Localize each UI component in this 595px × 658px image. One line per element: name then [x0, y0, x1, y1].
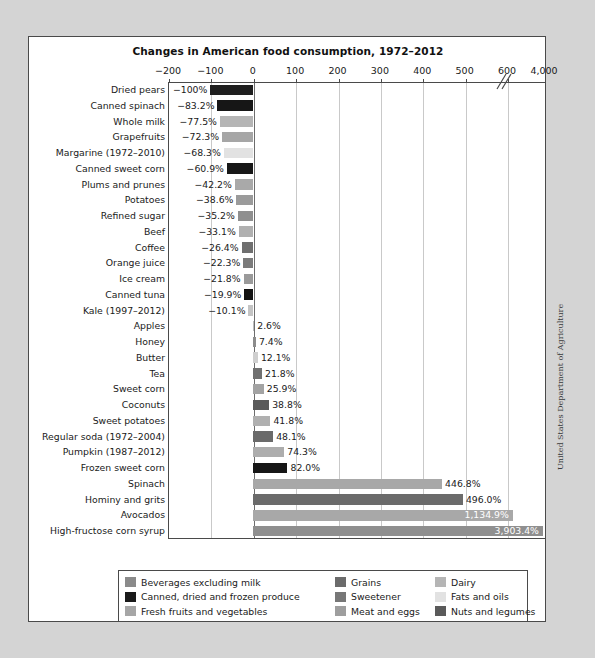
bar-row[interactable]: Dried pears−100% — [29, 82, 547, 98]
bar-value-label: 2.6% — [257, 318, 281, 334]
bar-row[interactable]: Avocados1,134.9% — [29, 507, 547, 523]
bar[interactable] — [244, 289, 252, 299]
bar-row[interactable]: Grapefruits−72.3% — [29, 129, 547, 145]
bar[interactable] — [238, 211, 253, 221]
bar-category-label: Dried pears — [111, 82, 165, 98]
legend-label: Sweetener — [351, 591, 401, 602]
legend-item[interactable]: Fresh fruits and vegetables — [125, 606, 335, 617]
bar-value-label: −22.3% — [203, 255, 240, 271]
bar-row[interactable]: Regular soda (1972–2004)48.1% — [29, 429, 547, 445]
bar-value-label: −33.1% — [198, 224, 235, 240]
legend-item[interactable]: Canned, dried and frozen produce — [125, 591, 335, 602]
bar-row[interactable]: Butter12.1% — [29, 350, 547, 366]
legend-label: Grains — [351, 577, 381, 588]
bar-category-label: Coffee — [135, 240, 165, 256]
bar-row[interactable]: Coffee−26.4% — [29, 240, 547, 256]
bar[interactable] — [253, 352, 258, 362]
bar-value-label: −83.2% — [177, 98, 214, 114]
legend-swatch-icon — [435, 577, 446, 587]
bar-row[interactable]: Beef−33.1% — [29, 224, 547, 240]
legend-item[interactable]: Grains — [335, 577, 435, 588]
legend-swatch-icon — [335, 577, 346, 587]
legend-item[interactable]: Fats and oils — [435, 591, 535, 602]
bar-category-label: Butter — [136, 350, 165, 366]
bar-value-label: −68.3% — [183, 145, 220, 161]
legend-swatch-icon — [125, 577, 136, 587]
legend-swatch-icon — [335, 592, 346, 602]
bar-row[interactable]: Canned sweet corn−60.9% — [29, 161, 547, 177]
bar[interactable] — [253, 368, 262, 378]
x-axis-tick-label: 200 — [328, 65, 346, 76]
bar[interactable] — [222, 132, 253, 142]
bar[interactable] — [227, 163, 253, 173]
bar-row[interactable]: Plums and prunes−42.2% — [29, 177, 547, 193]
legend-item[interactable]: Dairy — [435, 577, 535, 588]
legend-item[interactable]: Sweetener — [335, 591, 435, 602]
bar-row[interactable]: Pumpkin (1987–2012)74.3% — [29, 444, 547, 460]
bar-category-label: Margarine (1972–2010) — [56, 145, 165, 161]
bar-category-label: Beef — [144, 224, 165, 240]
bar-row[interactable]: Orange juice−22.3% — [29, 255, 547, 271]
bar[interactable] — [235, 179, 253, 189]
bar[interactable] — [253, 416, 271, 426]
bar[interactable] — [220, 116, 253, 126]
bar[interactable] — [239, 226, 253, 236]
bar-row[interactable]: Margarine (1972–2010)−68.3% — [29, 145, 547, 161]
bar[interactable] — [253, 494, 463, 504]
legend-label: Nuts and legumes — [451, 606, 535, 617]
bar-value-label: −26.4% — [201, 240, 238, 256]
legend-swatch-icon — [435, 606, 446, 616]
bar-category-label: Ice cream — [119, 271, 165, 287]
legend-swatch-icon — [435, 592, 446, 602]
bar-row[interactable]: Ice cream−21.8% — [29, 271, 547, 287]
legend-item[interactable]: Nuts and legumes — [435, 606, 535, 617]
legend-label: Fats and oils — [451, 591, 509, 602]
bar[interactable] — [242, 242, 253, 252]
bar-row[interactable]: Whole milk−77.5% — [29, 114, 547, 130]
bar-row[interactable]: Hominy and grits496.0% — [29, 492, 547, 508]
bar[interactable] — [253, 463, 288, 473]
bar[interactable] — [224, 148, 253, 158]
x-axis-tick-label: 500 — [456, 65, 474, 76]
bar-category-label: Grapefruits — [113, 129, 165, 145]
bar-row[interactable]: Refined sugar−35.2% — [29, 208, 547, 224]
bar[interactable] — [253, 447, 284, 457]
bar-row[interactable]: Tea21.8% — [29, 366, 547, 382]
bar[interactable] — [253, 431, 273, 441]
bar-row[interactable]: Sweet corn25.9% — [29, 381, 547, 397]
bar-value-label: 74.3% — [287, 444, 317, 460]
bar-value-label: 3,903.4% — [495, 523, 539, 539]
bar-value-label: 496.0% — [466, 492, 501, 508]
bar[interactable] — [236, 195, 252, 205]
bar-row[interactable]: Apples2.6% — [29, 318, 547, 334]
bar-row[interactable]: Kale (1997–2012)−10.1% — [29, 303, 547, 319]
bar[interactable] — [217, 100, 252, 110]
bar-row[interactable]: Coconuts38.8% — [29, 397, 547, 413]
bar-row[interactable]: Potatoes−38.6% — [29, 192, 547, 208]
legend-item[interactable]: Meat and eggs — [335, 606, 435, 617]
bar-category-label: Canned tuna — [105, 287, 165, 303]
bar[interactable] — [253, 400, 269, 410]
bar[interactable] — [248, 305, 252, 315]
x-axis-tick-label: 4,000 — [530, 65, 557, 76]
bar[interactable] — [253, 384, 264, 394]
x-axis-tick-label: 0 — [250, 65, 256, 76]
bar-row[interactable]: Canned tuna−19.9% — [29, 287, 547, 303]
bar-row[interactable]: Spinach446.8% — [29, 476, 547, 492]
bar-row[interactable]: Honey7.4% — [29, 334, 547, 350]
bar-row[interactable]: Frozen sweet corn82.0% — [29, 460, 547, 476]
bar-row[interactable]: High-fructose corn syrup3,903.4% — [29, 523, 547, 539]
bar[interactable] — [253, 479, 442, 489]
bar[interactable] — [244, 274, 253, 284]
bar-value-label: −77.5% — [180, 114, 217, 130]
bar-row[interactable]: Canned spinach−83.2% — [29, 98, 547, 114]
bar-category-label: Avocados — [121, 507, 165, 523]
bar[interactable] — [243, 258, 252, 268]
bar-row[interactable]: Sweet potatoes41.8% — [29, 413, 547, 429]
bar[interactable] — [253, 337, 256, 347]
legend-items: Beverages excluding milkGrainsDairyCanne… — [125, 575, 523, 619]
bar[interactable] — [210, 85, 252, 95]
plot-wrapper: −200−10001002003004005006004,000 Dried p… — [29, 65, 547, 575]
bar[interactable] — [253, 321, 255, 331]
legend-item[interactable]: Beverages excluding milk — [125, 577, 335, 588]
